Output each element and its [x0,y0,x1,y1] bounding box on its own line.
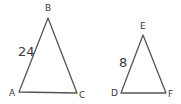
side-label-de: 8 [119,55,127,70]
vertex-label-e: E [140,21,146,31]
vertex-label-f: F [168,89,173,99]
triangle-def-shape [121,35,166,93]
vertex-label-c: C [79,90,85,100]
vertex-label-d: D [111,88,118,98]
triangle-def: E D F 8 [111,21,173,99]
triangle-abc: B A C 24 [9,3,85,100]
vertex-label-a: A [9,88,16,98]
side-label-ab: 24 [18,44,35,59]
vertex-label-b: B [45,3,51,13]
similar-triangles-diagram: B A C 24 E D F 8 [0,0,181,104]
